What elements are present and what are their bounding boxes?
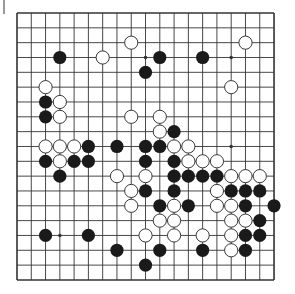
black-stone	[139, 66, 152, 79]
black-stone	[153, 244, 166, 257]
white-stone	[39, 81, 52, 94]
go-board[interactable]	[0, 0, 295, 294]
white-stone	[225, 199, 238, 212]
black-stone	[196, 170, 209, 183]
black-stone	[39, 95, 52, 108]
white-stone	[196, 229, 209, 242]
white-stone	[225, 244, 238, 257]
black-stone	[210, 170, 223, 183]
black-stone	[39, 155, 52, 168]
white-stone	[68, 140, 81, 153]
white-stone	[167, 140, 180, 153]
black-stone	[68, 155, 81, 168]
black-stone	[139, 155, 152, 168]
black-stone	[225, 184, 238, 197]
white-stone	[125, 199, 138, 212]
white-stone	[53, 140, 66, 153]
white-stone	[53, 155, 66, 168]
black-stone	[167, 155, 180, 168]
white-stone	[182, 140, 195, 153]
white-stone	[125, 184, 138, 197]
star-point	[229, 56, 233, 60]
black-stone	[253, 184, 266, 197]
black-stone	[39, 110, 52, 123]
white-stone	[239, 170, 252, 183]
black-stone	[39, 229, 52, 242]
white-stone	[225, 214, 238, 227]
black-stone	[153, 51, 166, 64]
black-stone	[196, 51, 209, 64]
black-stone	[253, 214, 266, 227]
white-stone	[139, 229, 152, 242]
white-stone	[53, 110, 66, 123]
white-stone	[39, 140, 52, 153]
white-stone	[53, 95, 66, 108]
white-stone	[253, 170, 266, 183]
white-stone	[125, 110, 138, 123]
black-stone	[153, 140, 166, 153]
white-stone	[225, 229, 238, 242]
white-stone	[96, 51, 109, 64]
white-stone	[139, 170, 152, 183]
black-stone	[267, 199, 280, 212]
white-stone	[153, 110, 166, 123]
black-stone	[196, 244, 209, 257]
black-stone	[253, 229, 266, 242]
black-stone	[139, 259, 152, 272]
black-stone	[239, 199, 252, 212]
black-stone	[82, 140, 95, 153]
star-point	[58, 234, 62, 238]
black-stone	[110, 140, 123, 153]
black-stone	[167, 125, 180, 138]
white-stone	[210, 199, 223, 212]
white-stone	[167, 229, 180, 242]
white-stone	[210, 155, 223, 168]
star-point	[144, 56, 148, 60]
white-stone	[210, 184, 223, 197]
black-stone	[239, 244, 252, 257]
black-stone	[53, 51, 66, 64]
white-stone	[239, 36, 252, 49]
black-stone	[167, 170, 180, 183]
white-stone	[225, 81, 238, 94]
black-stone	[153, 199, 166, 212]
black-stone	[53, 170, 66, 183]
black-stone	[82, 155, 95, 168]
white-stone	[110, 170, 123, 183]
black-stone	[239, 229, 252, 242]
black-stone	[82, 229, 95, 242]
white-stone	[125, 36, 138, 49]
star-point	[229, 145, 233, 149]
black-stone	[139, 184, 152, 197]
black-stone	[182, 170, 195, 183]
white-stone	[153, 214, 166, 227]
black-stone	[110, 244, 123, 257]
white-stone	[153, 125, 166, 138]
white-stone	[239, 214, 252, 227]
white-stone	[196, 155, 209, 168]
white-stone	[182, 155, 195, 168]
black-stone	[182, 199, 195, 212]
black-stone	[139, 140, 152, 153]
white-stone	[225, 170, 238, 183]
black-stone	[167, 184, 180, 197]
black-stone	[239, 184, 252, 197]
white-stone	[167, 199, 180, 212]
white-stone	[167, 214, 180, 227]
